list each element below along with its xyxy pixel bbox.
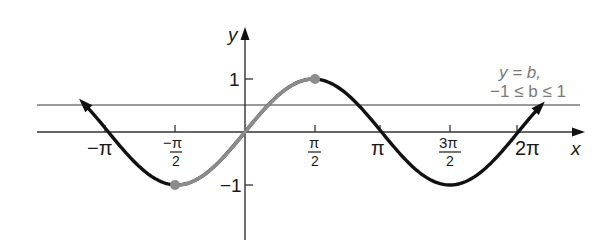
endpoint-min-dot (170, 180, 180, 190)
annotation-line-2: −1 ≤ b ≤ 1 (490, 82, 566, 101)
x-tick-label-half-pi: π 2 (308, 134, 321, 169)
y-tick-label-neg1: −1 (220, 175, 242, 196)
svg-text:2: 2 (172, 153, 180, 169)
annotation-line-1: y = b, (498, 63, 541, 82)
endpoint-max-dot (310, 74, 320, 84)
x-tick-label-three-half-pi: 3π 2 (439, 134, 461, 169)
x-tick-label-neg-half-pi: −π 2 (163, 134, 182, 169)
svg-text:3π: 3π (439, 134, 458, 151)
x-tick-label-two-pi: 2π (515, 137, 540, 159)
x-tick-label-pi: π (371, 137, 385, 159)
y-axis-label: y (226, 24, 239, 45)
y-axis-arrow-icon (241, 27, 250, 40)
x-ticks (105, 125, 517, 132)
svg-text:2: 2 (446, 153, 454, 169)
x-axis-arrow-icon (572, 128, 585, 137)
svg-text:π: π (309, 134, 319, 151)
svg-text:−π: −π (163, 134, 182, 151)
x-axis-label: x (570, 138, 582, 159)
x-tick-label-neg-pi: −π (87, 137, 112, 159)
svg-text:2: 2 (311, 153, 319, 169)
y-tick-label-1: 1 (229, 69, 240, 90)
sine-graph: y x 1 −1 −π −π 2 π 2 π 3π 2 2π y = b, −1… (0, 0, 614, 249)
